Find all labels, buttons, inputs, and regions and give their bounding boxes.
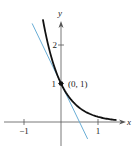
y-axis-label: y xyxy=(57,8,62,18)
chart: xy−1112(0, 1) xyxy=(0,0,138,151)
x-tick-label: −1 xyxy=(19,126,29,136)
x-axis-label: x xyxy=(126,117,131,127)
point-label: (0, 1) xyxy=(68,79,88,89)
x-tick-label: 1 xyxy=(96,126,101,136)
y-tick-label: 2 xyxy=(53,40,58,50)
point-marker xyxy=(59,81,64,86)
y-tick-label: 1 xyxy=(52,79,57,89)
